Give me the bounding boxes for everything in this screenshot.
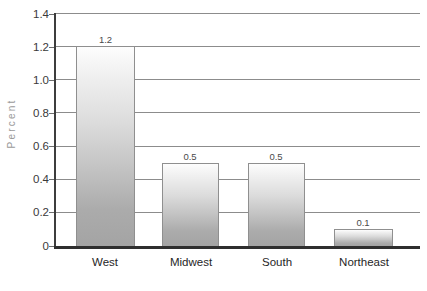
y-tick-label: 1.2 xyxy=(22,41,49,53)
x-category-label-northeast: Northeast xyxy=(339,256,389,268)
x-category-label-west: West xyxy=(92,256,118,268)
y-axis-tick-labels: 1.4 1.2 1.0 0.8 0.6 0.4 0.2 0 xyxy=(22,0,49,291)
y-tick-label: 1.0 xyxy=(22,74,49,86)
x-category-label-midwest: Midwest xyxy=(170,256,212,268)
x-category-label-south: South xyxy=(262,256,292,268)
y-axis-title-text: Percent xyxy=(7,98,18,148)
y-axis-title: Percent xyxy=(0,0,24,246)
y-tick-label: 0.8 xyxy=(22,107,49,119)
y-axis-line xyxy=(54,13,56,247)
bar-chart: Percent 1.4 1.2 1.0 0.8 0.6 0.4 0.2 0 1.… xyxy=(0,0,427,291)
bar-value-label-south: 0.5 xyxy=(269,151,282,162)
y-tick-label: 0.4 xyxy=(22,173,49,185)
bar-west[interactable] xyxy=(76,46,135,246)
y-tick-label: 1.4 xyxy=(22,8,49,20)
y-tick-label: 0 xyxy=(22,240,49,252)
plot-area: 1.2 0.5 0.5 0.1 xyxy=(54,13,420,246)
bar-value-label-west: 1.2 xyxy=(99,34,112,45)
bar-value-label-northeast: 0.1 xyxy=(356,217,369,228)
y-tick-label: 0.6 xyxy=(22,140,49,152)
gridline xyxy=(54,13,420,14)
y-tick-label: 0.2 xyxy=(22,206,49,218)
bar-northeast[interactable] xyxy=(334,229,393,246)
bar-south[interactable] xyxy=(248,163,305,246)
bar-value-label-midwest: 0.5 xyxy=(183,151,196,162)
x-axis-line xyxy=(54,246,420,249)
bar-midwest[interactable] xyxy=(162,163,219,246)
